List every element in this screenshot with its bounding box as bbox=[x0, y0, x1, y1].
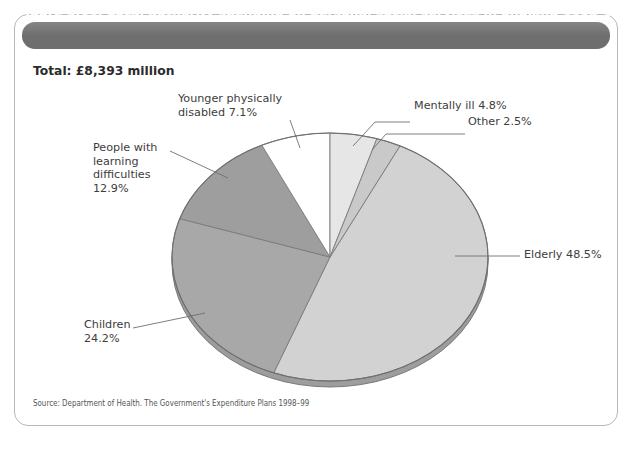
source-note: Source: Department of Health. The Govern… bbox=[33, 398, 309, 408]
pie-label-mentally-ill: Mentally ill 4.8% bbox=[414, 99, 507, 113]
pie-label-elderly: Elderly 48.5% bbox=[524, 248, 602, 262]
page-title: Figure 5.11: Local authority spending on… bbox=[17, 5, 621, 19]
figure-title-bar bbox=[22, 22, 610, 49]
pie-label-children: Children 24.2% bbox=[84, 318, 131, 345]
pie-label-learning-difficulties: People with learning difficulties 12.9% bbox=[93, 141, 157, 195]
total-amount-label: Total: £8,393 million bbox=[33, 64, 174, 78]
pie-label-younger-physically-disabled: Younger physically disabled 7.1% bbox=[178, 92, 282, 119]
pie-label-other: Other 2.5% bbox=[468, 115, 532, 129]
title-bar-sheen bbox=[22, 22, 610, 36]
